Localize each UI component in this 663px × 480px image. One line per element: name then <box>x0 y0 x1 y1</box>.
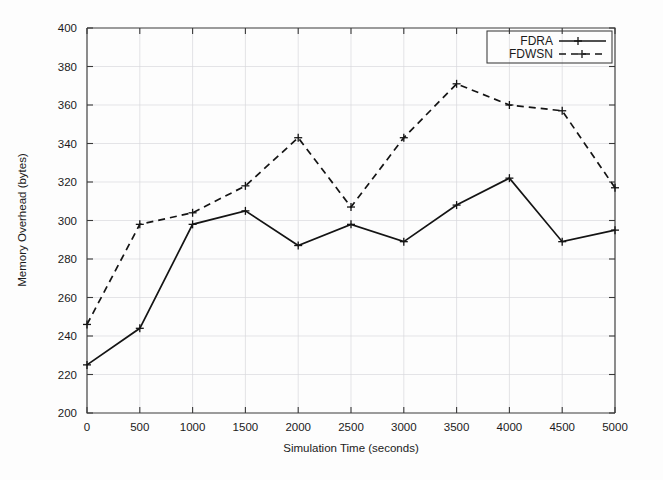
chart-legend: FDRA FDWSN <box>487 31 612 63</box>
legend-sample-fdra <box>559 37 606 45</box>
x-tick-label: 4500 <box>549 421 575 433</box>
x-axis-title: Simulation Time (seconds) <box>283 442 419 454</box>
data-point-marker <box>83 320 91 328</box>
x-tick-label: 4000 <box>497 421 523 433</box>
data-point-marker <box>189 220 197 228</box>
data-point-marker <box>611 226 619 234</box>
legend-sample-fdwsn <box>559 50 606 58</box>
data-point-marker <box>347 220 355 228</box>
y-tick-label: 320 <box>58 176 77 188</box>
x-tick-label: 5000 <box>602 421 628 433</box>
x-tick-label: 0 <box>84 421 90 433</box>
line-chart: 0500100015002000250030003500400045005000… <box>0 0 663 480</box>
y-tick-label: 220 <box>58 369 77 381</box>
y-axis-title: Memory Overhead (bytes) <box>16 153 28 287</box>
data-point-marker <box>189 209 197 217</box>
x-tick-label: 2000 <box>285 421 311 433</box>
y-tick-label: 380 <box>58 61 77 73</box>
y-tick-label: 400 <box>58 22 77 34</box>
legend-label-fdra: FDRA <box>520 34 553 48</box>
y-tick-label: 200 <box>58 407 77 419</box>
y-tick-label: 300 <box>58 215 77 227</box>
chart-page: 0500100015002000250030003500400045005000… <box>0 0 663 480</box>
y-tick-label: 240 <box>58 330 77 342</box>
y-tick-label: 340 <box>58 138 77 150</box>
data-point-marker <box>136 220 144 228</box>
y-tick-labels: 200220240260280300320340360380400 <box>58 22 77 419</box>
y-tick-label: 260 <box>58 292 77 304</box>
x-tick-label: 3000 <box>391 421 417 433</box>
x-tick-label: 3500 <box>444 421 470 433</box>
x-tick-label: 1000 <box>180 421 206 433</box>
legend-label-fdwsn: FDWSN <box>509 47 553 61</box>
x-tick-label: 2500 <box>338 421 364 433</box>
y-tick-label: 360 <box>58 99 77 111</box>
x-tick-label: 500 <box>130 421 149 433</box>
x-tick-labels: 0500100015002000250030003500400045005000 <box>84 421 628 433</box>
x-tick-label: 1500 <box>233 421 259 433</box>
data-point-marker <box>505 101 513 109</box>
y-tick-label: 280 <box>58 253 77 265</box>
